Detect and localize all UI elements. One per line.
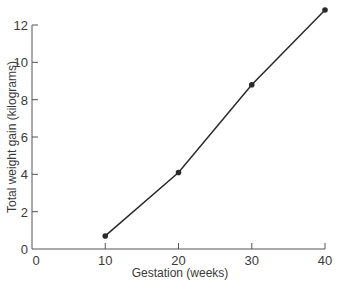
x-tick-label: 40: [318, 253, 332, 268]
x-tick-label: 10: [98, 253, 112, 268]
x-tick-label: 0: [32, 253, 39, 268]
y-tick-label: 6: [21, 130, 28, 145]
x-axis-title: Gestation (weeks): [132, 266, 229, 280]
data-point: [322, 7, 328, 13]
data-point: [176, 170, 182, 176]
y-tick-label: 2: [21, 205, 28, 220]
y-tick-label: 12: [14, 18, 28, 33]
x-axis: 010203040: [32, 243, 332, 268]
series-line: [105, 10, 325, 236]
y-axis-title: Total weight gain (kilograms): [5, 61, 19, 213]
x-tick-label: 30: [245, 253, 259, 268]
data-point: [249, 82, 255, 88]
data-series: [102, 7, 327, 238]
y-tick-label: 8: [21, 93, 28, 108]
y-tick-label: 0: [21, 242, 28, 257]
line-chart: 024681012 010203040 Gestation (weeks) To…: [0, 0, 339, 286]
y-tick-label: 4: [21, 167, 28, 182]
data-point: [102, 233, 108, 239]
